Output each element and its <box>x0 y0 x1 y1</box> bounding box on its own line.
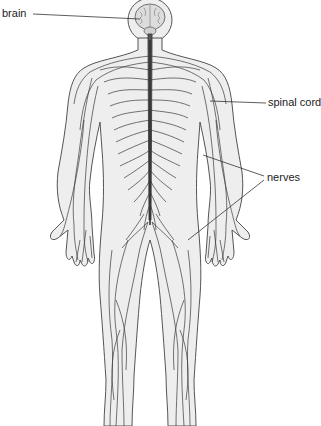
brain-label: brain <box>2 8 26 19</box>
spinal-cord-label: spinal cord <box>268 97 321 108</box>
body-illustration <box>0 0 321 426</box>
nerves-label: nerves <box>267 172 300 183</box>
brain-leader-line <box>33 14 140 19</box>
nervous-system-diagram <box>0 0 321 426</box>
